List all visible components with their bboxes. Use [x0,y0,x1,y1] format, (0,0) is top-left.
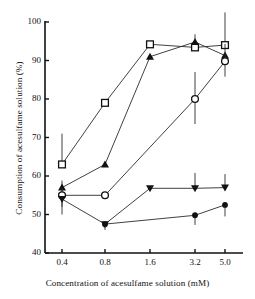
y-axis-tick-label: 80 [15,93,41,103]
data-point-open-circle [222,58,229,65]
x-axis-tick-label: 0.4 [47,257,77,267]
data-point-filled-circle [222,202,228,208]
data-point-open-square [102,99,109,106]
x-axis-tick-label: 1.6 [135,257,165,267]
series-line-open-square [62,44,225,164]
data-point-open-square [59,161,66,168]
series-line-filled-triangle-down [62,188,225,225]
x-axis-tick-label: 3.2 [180,257,210,267]
y-axis-tick-label: 60 [15,170,41,180]
data-point-filled-triangle-down [191,185,199,192]
x-axis-title: Concentration of acesulfame solution (mM… [0,278,255,288]
y-axis-tick-label: 40 [15,247,41,257]
figure: Concentration of acesulfame solution (mM… [0,0,255,299]
series-line-filled-triangle-up [62,42,225,188]
y-axis-tick-label: 100 [15,16,41,26]
data-point-filled-circle [102,221,108,227]
data-point-open-circle [192,96,199,103]
data-point-filled-triangle-down [146,185,154,192]
data-point-filled-triangle-up [101,160,109,167]
data-point-filled-triangle-down [58,196,66,203]
data-point-filled-circle [192,212,198,218]
data-point-open-circle [102,192,109,199]
y-axis-tick-label: 50 [15,209,41,219]
series-line-open-circle [62,61,225,195]
x-axis-tick-label: 0.8 [90,257,120,267]
y-axis-tick-label: 90 [15,55,41,65]
series-line-filled-circle [105,205,225,224]
y-axis-tick-label: 70 [15,132,41,142]
x-axis-tick-label: 5.0 [210,257,240,267]
data-point-open-square [147,41,154,48]
data-point-filled-triangle-up [191,38,199,45]
data-point-open-square [192,44,199,51]
